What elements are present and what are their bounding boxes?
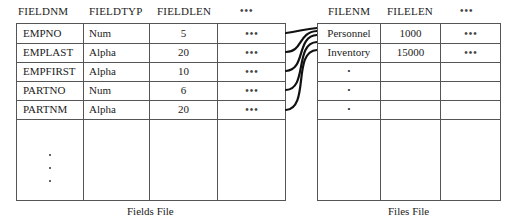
table-row: • xyxy=(318,100,500,120)
header-filelen: FILELEN xyxy=(387,5,433,17)
header-more-ellipsis: ••• xyxy=(460,5,474,16)
cell-more: ••• xyxy=(441,43,501,62)
cell-filenm-ellipsis: • xyxy=(318,81,380,100)
cell-filelen: 15000 xyxy=(381,43,440,62)
cell-filenm: Inventory xyxy=(318,43,380,62)
cell-filenm-ellipsis: • xyxy=(318,100,380,119)
files-file-caption: Files File xyxy=(388,205,429,217)
table-row: Personnel 1000 ••• xyxy=(318,24,500,44)
files-file-table: Personnel 1000 ••• Inventory 15000 ••• •… xyxy=(317,23,501,201)
cell-filenm-ellipsis: • xyxy=(318,62,380,81)
cell-filelen: 1000 xyxy=(381,24,440,43)
table-row: Inventory 15000 ••• xyxy=(318,43,500,63)
cell-more: ••• xyxy=(441,24,501,43)
table-row: • xyxy=(318,62,500,82)
cell-filenm: Personnel xyxy=(318,24,380,43)
header-filenm: FILENM xyxy=(328,5,370,17)
table-row: • xyxy=(318,81,500,101)
